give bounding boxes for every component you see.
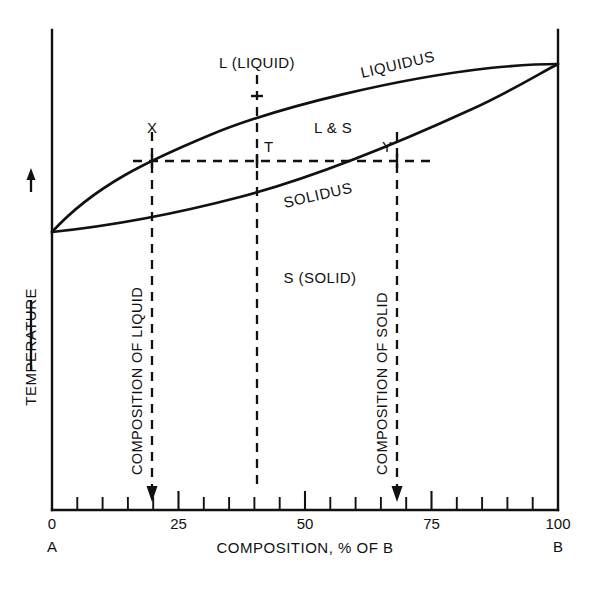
x-axis-tick-labels: 0 25 50 75 100 xyxy=(48,515,571,532)
annotation-composition-of-liquid: COMPOSITION OF LIQUID xyxy=(129,287,145,475)
solidus-curve xyxy=(52,64,558,232)
x-axis-title: COMPOSITION, % OF B xyxy=(216,539,393,556)
curve-label-solidus: SOLIDUS xyxy=(282,179,354,211)
region-labels: L (LIQUID) L & S S (SOLID) xyxy=(219,54,356,286)
x-tick-label-100: 100 xyxy=(545,515,570,532)
y-axis-title: TEMPERATURE xyxy=(22,288,39,406)
x-axis-ticks xyxy=(77,491,532,510)
region-label-liquid: L (LIQUID) xyxy=(219,54,295,71)
curve-labels: LIQUIDUS SOLIDUS xyxy=(282,47,437,211)
x-tick-label-75: 75 xyxy=(423,515,440,532)
annotation-composition-of-solid: COMPOSITION OF SOLID xyxy=(374,292,390,475)
y-axis-title-group: TEMPERATURE xyxy=(22,168,39,406)
x-tick-label-25: 25 xyxy=(170,515,187,532)
phase-diagram-figure: 0 25 50 75 100 A B COMPOSITION, % OF B T… xyxy=(0,0,597,591)
point-label-y: Y xyxy=(382,138,392,155)
curve-label-liquidus: LIQUIDUS xyxy=(359,47,437,81)
x-tick-label-50: 50 xyxy=(297,515,314,532)
region-label-solid: S (SOLID) xyxy=(284,269,357,286)
composition-annotations: COMPOSITION OF LIQUID COMPOSITION OF SOL… xyxy=(129,287,390,475)
arrow-down-icon-composition-of-solid xyxy=(392,486,403,502)
endpoint-label-b: B xyxy=(553,538,563,555)
composition-arrow-markers xyxy=(147,486,403,502)
phase-diagram-svg: 0 25 50 75 100 A B COMPOSITION, % OF B T… xyxy=(0,0,597,591)
arrow-down-icon-composition-of-liquid xyxy=(147,486,158,502)
vertical-construction-lines xyxy=(152,75,397,486)
point-label-t: T xyxy=(264,138,273,155)
liquidus-curve xyxy=(52,64,558,232)
arrow-up-icon xyxy=(27,168,36,180)
tie-line-point-labels: X T Y xyxy=(147,119,392,155)
region-label-liquid-and-solid: L & S xyxy=(314,119,352,136)
point-label-x: X xyxy=(147,119,157,136)
x-tick-label-0: 0 xyxy=(48,515,56,532)
phase-boundary-curves xyxy=(52,64,558,232)
endpoint-label-a: A xyxy=(47,538,57,555)
